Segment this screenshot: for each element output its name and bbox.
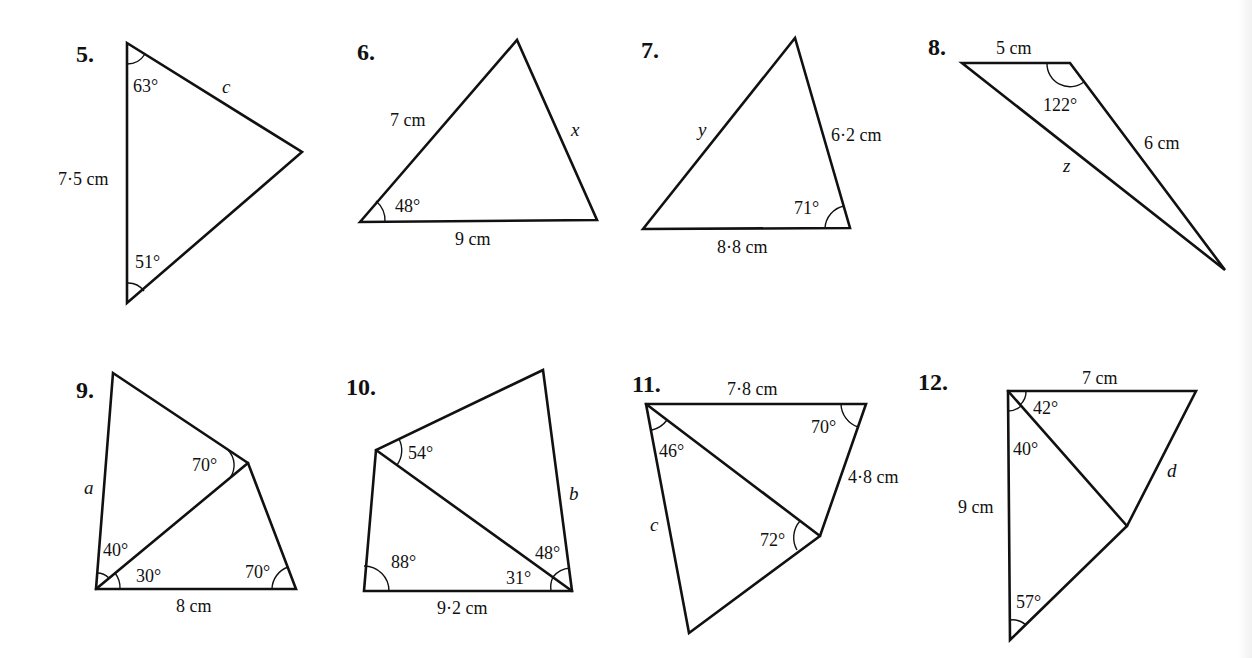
problem-number: 5. — [76, 41, 94, 67]
side-label-y: y — [696, 119, 707, 140]
problem-number: 10. — [346, 374, 376, 400]
diagonal-line — [96, 463, 248, 589]
angle-arc-bottom — [1010, 620, 1026, 625]
side-label-bottom: 8·8 cm — [717, 237, 767, 257]
problem-6: 6. 7 cm x 48° 9 cm — [357, 39, 597, 249]
problem-number: 6. — [357, 39, 375, 65]
angle-label-top: 63° — [133, 76, 158, 96]
diagrams-canvas: 5. 63° c 7·5 cm 51° 6. 7 cm x 48° 9 cm 7… — [0, 0, 1252, 658]
angle-arc-top — [127, 54, 145, 64]
problem-number: 11. — [632, 371, 661, 397]
angle-arc-top-left — [652, 420, 667, 430]
angle-arc-right-lower — [551, 577, 553, 591]
angle-label-bottom: 57° — [1016, 592, 1041, 612]
side-label-bottom: 9·2 cm — [437, 598, 487, 618]
side-label-c: c — [222, 76, 231, 97]
side-label-bottom: 8 cm — [176, 596, 212, 616]
angle-label-top-right: 70° — [811, 417, 836, 437]
side-label-top: 7·8 cm — [727, 379, 777, 399]
problem-number: 7. — [641, 37, 659, 63]
angle-label-bottom-right: 70° — [245, 562, 270, 582]
triangle-shape — [962, 63, 1225, 270]
problem-5: 5. 63° c 7·5 cm 51° — [58, 41, 302, 303]
angle-label-bottom-right: 71° — [794, 198, 819, 218]
angle-arc-top-left-upper — [1020, 391, 1026, 405]
side-label-b: b — [569, 483, 579, 504]
side-label-left: 9 cm — [958, 497, 994, 517]
problem-10: 10. 54° b 88° 48° 31° 9·2 cm — [346, 370, 579, 618]
side-label-left: 7·5 cm — [58, 169, 108, 189]
angle-label-top-left: 46° — [659, 441, 684, 461]
angle-arc-top-left-lower — [1008, 406, 1021, 411]
angle-arc-bottom-right — [825, 206, 844, 228]
angle-label-obtuse: 122° — [1043, 95, 1077, 115]
angle-arc-top-right — [841, 404, 858, 427]
angle-label-right-upper: 48° — [535, 543, 560, 563]
problem-9: 9. a 70° 40° 30° 70° 8 cm — [76, 373, 296, 616]
triangle-shape — [360, 40, 597, 222]
angle-label-left-lower: 30° — [136, 566, 161, 586]
side-label-x: x — [570, 119, 580, 140]
side-label-top: 7 cm — [1082, 368, 1118, 388]
angle-label-right-lower: 31° — [506, 568, 531, 588]
angle-arc-bottom-left — [376, 201, 385, 222]
problem-8: 8. 5 cm 122° 6 cm z — [928, 34, 1225, 270]
angle-arc-left-top — [397, 439, 402, 465]
diagonal-line — [646, 404, 820, 536]
problem-number: 8. — [928, 34, 946, 60]
side-label-a: a — [84, 477, 94, 498]
side-label-right: 6·2 cm — [831, 125, 881, 145]
angle-arc-left-lower — [115, 573, 120, 589]
angle-label-left-top: 54° — [408, 443, 433, 463]
exercise-page: 5. 63° c 7·5 cm 51° 6. 7 cm x 48° 9 cm 7… — [0, 0, 1252, 658]
side-label-z: z — [1062, 155, 1071, 176]
angle-arc-bottom-left — [364, 566, 389, 591]
problem-7: 7. y 6·2 cm 71° 8·8 cm — [641, 37, 881, 257]
quadrilateral-shape — [646, 404, 866, 633]
problem-number: 9. — [76, 377, 94, 403]
problem-11: 11. 7·8 cm 70° 46° 4·8 cm c 72° — [632, 371, 898, 633]
angle-arc-right-upper — [553, 568, 570, 577]
angle-label-top-left-lower: 40° — [1013, 439, 1038, 459]
side-label-right: 6 cm — [1144, 133, 1180, 153]
side-label-bottom: 9 cm — [455, 229, 491, 249]
angle-label-middle: 72° — [760, 530, 785, 550]
side-label-c: c — [650, 514, 659, 535]
angle-label-bottom-left: 88° — [391, 552, 416, 572]
problem-12: 12. 7 cm 42° 40° d 9 cm 57° — [918, 368, 1196, 640]
angle-label-bottom-left: 48° — [395, 196, 420, 216]
problem-number: 12. — [918, 369, 948, 395]
angle-arc-middle — [794, 521, 800, 550]
side-label-right: 4·8 cm — [848, 467, 898, 487]
side-label-left: 7 cm — [390, 110, 426, 130]
side-label-top: 5 cm — [996, 38, 1032, 58]
page-edge-shadow — [1238, 0, 1252, 658]
angle-label-left-upper: 40° — [103, 540, 128, 560]
side-label-d: d — [1167, 460, 1177, 481]
angle-label-upper: 70° — [192, 455, 217, 475]
angle-arc-bottom-right — [272, 567, 288, 589]
angle-label-bottom: 51° — [135, 252, 160, 272]
angle-label-top-left-upper: 42° — [1033, 398, 1058, 418]
angle-arc-left-upper — [97, 573, 109, 578]
